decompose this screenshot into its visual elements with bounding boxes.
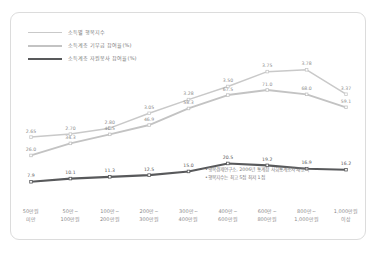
legend-label-donation: 소득계층 기부금 참여율(%) (68, 42, 132, 49)
data-label-happiness-7: 3.78 (301, 61, 311, 67)
legend-label-volunteer: 소득계층 자원봉사 참여율(%) (68, 55, 137, 62)
data-label-donation-3: 46.9 (144, 117, 154, 123)
x-tick-line: 50만원 (10, 208, 52, 216)
data-point-marker (305, 93, 308, 96)
x-tick-line: 1,000만원 (286, 216, 328, 224)
data-label-volunteer-1: 10.1 (65, 170, 75, 176)
data-point-marker (30, 180, 33, 183)
x-tick-line: 이상 (325, 216, 367, 224)
data-label-volunteer-5: 20.5 (223, 155, 233, 161)
data-label-happiness-2: 2.80 (105, 120, 115, 126)
x-tick-line: 600만원 (207, 216, 249, 224)
legend-item-volunteer: 소득계층 자원봉사 참여율(%) (28, 53, 208, 64)
data-point-marker (305, 69, 308, 72)
data-point-marker (148, 124, 151, 127)
chart-legend: 소득별 행복지수 소득계층 기부금 참여율(%) 소득계층 자원봉사 참여율(%… (28, 27, 208, 66)
data-point-marker (108, 133, 111, 136)
data-point-marker (148, 112, 151, 115)
x-tick-line: 미만 (10, 216, 52, 224)
x-tick-label-2: 100만~200만원 (89, 208, 131, 223)
x-tick-label-0: 50만원미만 (10, 208, 52, 223)
data-label-volunteer-3: 12.5 (144, 167, 154, 173)
data-point-marker (345, 93, 348, 96)
x-tick-label-6: 600만~800만원 (246, 208, 288, 223)
data-point-marker (345, 106, 348, 109)
x-tick-line: 100만~ (89, 208, 131, 216)
data-label-happiness-8: 3.37 (341, 86, 351, 92)
x-tick-line: 600만~ (246, 208, 288, 216)
legend-item-happiness: 소득별 행복지수 (28, 27, 208, 38)
x-tick-line: 800만~ (286, 208, 328, 216)
data-point-marker (30, 136, 33, 139)
x-tick-label-5: 400만~600만원 (207, 208, 249, 223)
x-tick-label-8: 1,000만원이상 (325, 208, 367, 223)
data-label-donation-6: 71.0 (262, 82, 272, 88)
data-label-donation-4: 58.3 (183, 100, 193, 106)
x-tick-line: 1,000만원 (325, 208, 367, 216)
data-point-marker (187, 107, 190, 110)
data-point-marker (266, 70, 269, 73)
data-label-happiness-6: 3.75 (262, 63, 272, 69)
legend-swatch-happiness (28, 32, 62, 33)
data-point-marker (30, 154, 33, 157)
data-point-marker (69, 142, 72, 145)
data-label-volunteer-2: 11.3 (105, 168, 115, 174)
data-label-happiness-5: 3.50 (223, 78, 233, 84)
x-tick-label-7: 800만~1,000만원 (286, 208, 328, 223)
data-label-volunteer-4: 15.0 (183, 163, 193, 169)
legend-swatch-donation (28, 45, 62, 47)
chart-figure: 소득별 행복지수 소득계층 기부금 참여율(%) 소득계층 자원봉사 참여율(%… (0, 0, 377, 255)
data-point-marker (266, 89, 269, 92)
data-point-marker (69, 177, 72, 180)
legend-label-happiness: 소득별 행복지수 (68, 29, 105, 36)
data-label-donation-7: 68.0 (301, 86, 311, 92)
data-label-donation-8: 59.1 (341, 99, 351, 105)
data-label-happiness-1: 2.70 (65, 126, 75, 132)
x-tick-line: 200만원 (89, 216, 131, 224)
x-tick-line: 50만~ (49, 208, 91, 216)
x-tick-line: 800만원 (246, 216, 288, 224)
data-point-marker (108, 176, 111, 179)
data-label-donation-2: 40.5 (105, 126, 115, 132)
x-tick-label-3: 200만~300만원 (128, 208, 170, 223)
legend-item-donation: 소득계층 기부금 참여율(%) (28, 40, 208, 51)
data-label-volunteer-6: 19.2 (262, 157, 272, 163)
data-label-donation-1: 34.3 (65, 135, 75, 141)
data-label-donation-0: 26.0 (26, 147, 36, 153)
data-point-marker (187, 170, 190, 173)
data-label-happiness-0: 2.65 (26, 129, 36, 135)
data-label-volunteer-0: 7.9 (27, 173, 34, 179)
data-point-marker (148, 174, 151, 177)
legend-swatch-volunteer (28, 58, 62, 60)
data-label-happiness-4: 3.28 (183, 91, 193, 97)
x-tick-line: 400만~ (207, 208, 249, 216)
x-tick-label-4: 300만~400만원 (168, 208, 210, 223)
x-tick-line: 300만원 (128, 216, 170, 224)
data-label-donation-5: 67.5 (223, 87, 233, 93)
annotation-source: •행복경제연구소, 2006년 통계청 사회통계조사 재분석 (205, 166, 355, 174)
x-tick-line: 400만원 (168, 216, 210, 224)
data-point-marker (227, 162, 230, 165)
x-tick-line: 100만원 (49, 216, 91, 224)
x-tick-line: 200만~ (128, 208, 170, 216)
x-tick-line: 300만~ (168, 208, 210, 216)
annotation-scale: •행복지수는 최고 5점 최저 1점 (205, 174, 355, 182)
x-tick-label-1: 50만~100만원 (49, 208, 91, 223)
chart-annotations: •행복경제연구소, 2006년 통계청 사회통계조사 재분석 •행복지수는 최고… (205, 166, 355, 182)
data-label-happiness-3: 3.05 (144, 105, 154, 111)
data-point-marker (227, 94, 230, 97)
